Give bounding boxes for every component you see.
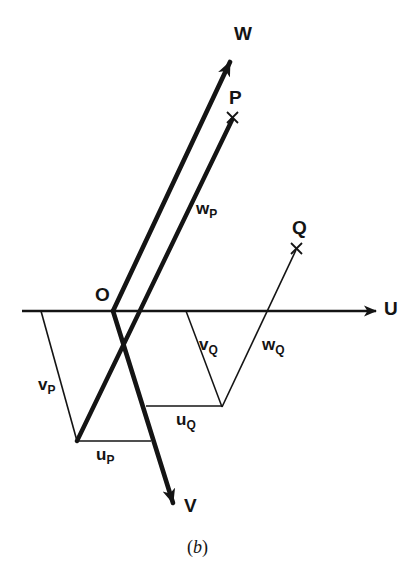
figure-caption: (b) <box>187 537 208 558</box>
point-label-p: P <box>229 88 242 107</box>
point-marker-q <box>291 243 302 254</box>
component-label-u-p-sub: P <box>106 453 114 467</box>
caption-close-paren: ) <box>202 537 208 557</box>
point-label-q: Q <box>292 218 307 237</box>
component-label-u-p-base: u <box>96 445 106 464</box>
axis-label-u: U <box>384 299 398 318</box>
component-label-w-q-base: w <box>262 335 275 354</box>
component-label-v-q: vQ <box>199 336 218 356</box>
component-line-v-q <box>186 311 222 407</box>
caption-letter: b <box>193 537 202 557</box>
axis-label-v: V <box>184 496 197 515</box>
component-label-u-q: uQ <box>176 411 196 431</box>
component-label-w-p-sub: P <box>209 207 217 221</box>
vector-diagram <box>0 0 416 573</box>
axis-line-w <box>113 62 230 311</box>
component-label-w-q-sub: Q <box>275 343 284 357</box>
component-label-v-q-sub: Q <box>208 343 217 357</box>
component-label-v-p-sub: P <box>47 383 55 397</box>
figure-container: W U V O P Q wP vP uP vQ wQ uQ (b) <box>0 0 416 573</box>
origin-label: O <box>95 285 110 304</box>
component-label-u-q-sub: Q <box>186 418 195 432</box>
component-label-u-q-base: u <box>176 410 186 429</box>
component-label-w-p-base: w <box>196 199 209 218</box>
axis-label-w: W <box>234 24 252 43</box>
component-label-u-p: uP <box>96 446 114 466</box>
component-label-w-p: wP <box>196 200 217 220</box>
construction-line-q <box>222 250 296 407</box>
axis-line-v <box>113 311 173 503</box>
component-label-v-p: vP <box>38 376 55 396</box>
construction-line-p-heavy <box>77 120 232 441</box>
component-label-w-q: wQ <box>262 336 285 356</box>
